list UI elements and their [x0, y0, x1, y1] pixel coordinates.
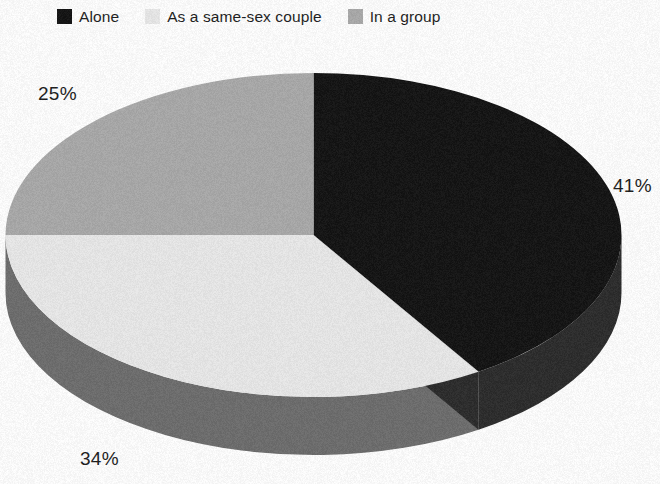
slice-label-alone: 41% [613, 176, 652, 195]
legend-item-in-a-group: In a group [348, 9, 441, 25]
square-swatch-icon [145, 9, 160, 24]
legend-item-label: As a same-sex couple [167, 9, 322, 25]
square-swatch-icon [57, 9, 72, 24]
legend-item-label: In a group [370, 9, 441, 25]
square-swatch-icon [348, 9, 363, 24]
legend-item-alone: Alone [57, 9, 119, 25]
pie-chart [0, 0, 660, 484]
legend-item-as-a-same-sex-couple: As a same-sex couple [145, 9, 322, 25]
chart-legend: Alone As a same-sex couple In a group [57, 9, 440, 25]
pie-top-surface [6, 73, 622, 397]
slice-label-in-a-group: 25% [38, 84, 77, 103]
legend-item-label: Alone [79, 9, 119, 25]
pie-chart-svg [0, 0, 660, 484]
slice-label-as-a-same-sex-couple: 34% [80, 449, 119, 468]
